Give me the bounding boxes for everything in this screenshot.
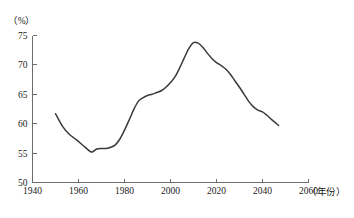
data-series-line [56,42,279,152]
chart-axes [33,36,309,183]
y-axis-tick-label: 55 [18,149,28,159]
x-axis-tick-label: 2040 [253,186,272,196]
y-axis-tick-label: 60 [18,119,28,129]
y-axis-tick-group: 505560657075 [18,31,37,188]
x-axis-tick-label: 1980 [115,186,134,196]
x-axis-tick-label: 1960 [69,186,88,196]
y-axis-tick-label: 70 [18,60,28,70]
x-axis-tick-label: 2060 [299,186,318,196]
chart-screenshot: （%） （年份） 505560657075 194019601980200020… [0,0,354,218]
x-axis-tick-label: 2020 [207,186,226,196]
x-axis-tick-group: 1940196019802000202020402060 [23,179,318,197]
x-axis-tick-label: 1940 [23,186,42,196]
line-chart-plot: 505560657075 194019601980200020202040206… [0,0,354,218]
x-axis-tick-label: 2000 [161,186,180,196]
y-axis-tick-label: 65 [18,90,28,100]
y-axis-tick-label: 75 [18,31,28,41]
